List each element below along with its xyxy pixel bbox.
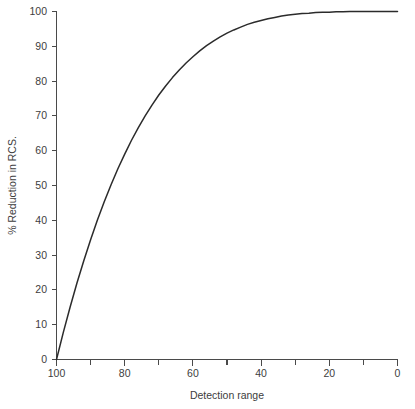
y-tick-label-80: 80	[35, 75, 47, 87]
y-tick-label-50: 50	[35, 179, 47, 191]
y-tick-label-10: 10	[35, 318, 47, 330]
y-tick-label-100: 100	[29, 5, 47, 17]
x-tick-label-60: 60	[187, 367, 199, 379]
y-tick-label-20: 20	[35, 283, 47, 295]
axes-group	[57, 12, 398, 360]
y-axis-tick-labels: 0 10 20 30 40 50 60 70 80 90 100	[29, 5, 47, 365]
x-tick-label-80: 80	[119, 367, 131, 379]
y-axis-title: % Reduction in RCS.	[6, 136, 18, 235]
y-tick-label-90: 90	[35, 40, 47, 52]
y-axis-ticks	[52, 12, 57, 360]
chart-plot-area: 0 10 20 30 40 50 60 70 80 90 100	[0, 0, 415, 409]
y-tick-label-30: 30	[35, 249, 47, 261]
x-tick-label-0: 0	[395, 367, 401, 379]
y-tick-label-0: 0	[41, 353, 47, 365]
x-tick-label-20: 20	[323, 367, 335, 379]
x-axis-ticks	[57, 360, 398, 366]
x-tick-label-100: 100	[48, 367, 66, 379]
x-axis-title: Detection range	[190, 389, 264, 401]
y-tick-label-70: 70	[35, 109, 47, 121]
y-tick-label-40: 40	[35, 214, 47, 226]
rcs-reduction-curve	[57, 12, 398, 360]
y-tick-label-60: 60	[35, 144, 47, 156]
x-tick-label-40: 40	[255, 367, 267, 379]
x-axis-tick-labels: 100 80 60 40 20 0	[48, 367, 401, 379]
chart-container: 0 10 20 30 40 50 60 70 80 90 100	[0, 0, 415, 409]
